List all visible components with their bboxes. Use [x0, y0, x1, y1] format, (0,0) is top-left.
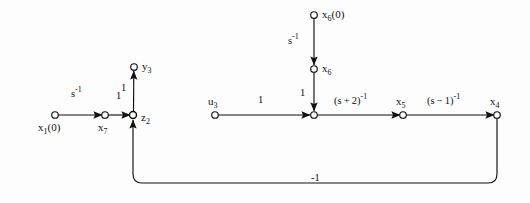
node-label-x6-initial: x6(0) — [322, 9, 344, 20]
node-label-u3: u3 — [208, 96, 218, 107]
edge-gain-feedback: -1 — [311, 173, 320, 184]
node-label-x6: x6 — [322, 63, 332, 74]
node-label-y3: y3 — [142, 61, 152, 72]
node-x6 — [311, 66, 318, 73]
node-x6-initial — [311, 12, 318, 19]
node-label-x4: x4 — [490, 96, 500, 107]
node-x1-initial — [52, 112, 59, 119]
node-label-x1-initial: x1(0) — [38, 122, 60, 133]
edge-gain-x6init-to-x6: s-1 — [288, 36, 299, 47]
node-label-x5: x5 — [396, 96, 406, 107]
edge-gain-x5-to-x4: (s − 1)-1 — [427, 96, 460, 107]
node-junction — [311, 112, 318, 119]
node-y3 — [131, 64, 138, 71]
node-x7 — [102, 112, 109, 119]
edge-gain-junction-to-x5: (s + 2)-1 — [334, 96, 367, 107]
node-u3 — [212, 112, 219, 119]
edge-gain-u3-to-junction: 1 — [258, 95, 263, 106]
edge-gain-x6-to-junction: 1 — [300, 88, 305, 99]
node-x4 — [494, 112, 501, 119]
edge-gain-z2-to-y3: 1 — [121, 83, 126, 94]
signal-flow-graph-figure: x1(0) x7 z2 y3 x6(0) x6 u3 x5 x4 s-1 1 1… — [0, 0, 530, 203]
node-label-z2: z2 — [141, 112, 150, 123]
edge-gain-x1-to-x7: s-1 — [71, 89, 82, 100]
node-label-x7: x7 — [98, 122, 108, 133]
node-z2 — [130, 112, 137, 119]
node-x5 — [400, 112, 407, 119]
